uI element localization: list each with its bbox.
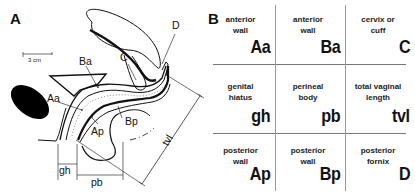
grid-cell-c: cervix orcuff C <box>345 0 415 64</box>
grid-divider-vertical-1 <box>275 5 276 191</box>
cell-abbreviation: tvl <box>392 105 410 127</box>
label-c: C <box>120 52 128 63</box>
panel-a-letter: A <box>10 10 21 27</box>
grid-cell-bp: posteriorwall Bp <box>275 133 345 195</box>
panel-a-sagittal-diagram: A 3 cm Ba C D Aa Ap Bp gh pb tvl <box>0 0 210 195</box>
grid-cell-d: posteriorfornix D <box>345 133 415 195</box>
label-ap: Ap <box>91 126 104 137</box>
cell-description: total vaginallength <box>345 81 411 103</box>
cell-abbreviation: Ba <box>320 36 340 58</box>
cell-description: anteriorwall <box>210 14 271 36</box>
grid-cell-tvl: total vaginallength tvl <box>345 64 415 133</box>
panel-b-legend-grid: B anteriorwall Aa anteriorwall Ba cervix… <box>210 0 415 195</box>
label-aa: Aa <box>47 93 60 104</box>
rectum-dash <box>130 128 154 140</box>
grid-cell-pb: perinealbody pb <box>275 64 345 133</box>
cell-abbreviation: Aa <box>250 36 270 58</box>
grid-cell-ba: anteriorwall Ba <box>275 0 345 64</box>
label-gh: gh <box>59 165 71 176</box>
grid-divider-horizontal-2 <box>213 133 406 134</box>
measurement-grid: anteriorwall Aa anteriorwall Ba cervix o… <box>210 0 415 195</box>
grid-cell-ap: posteriorwall Ap <box>210 133 275 195</box>
d-leader <box>162 34 175 64</box>
perineum-diagonal <box>76 140 142 184</box>
grid-cell-gh: genitalhiatus gh <box>210 64 275 133</box>
grid-cell-aa: anteriorwall Aa <box>210 0 275 64</box>
label-pb: pb <box>91 177 103 188</box>
grid-divider-vertical-2 <box>345 5 346 191</box>
cell-abbreviation: D <box>399 163 410 185</box>
cell-abbreviation: pb <box>321 105 340 127</box>
cell-abbreviation: gh <box>251 105 270 127</box>
grid-divider-horizontal-1 <box>213 64 406 65</box>
cell-description: genitalhiatus <box>210 81 271 103</box>
label-bp: Bp <box>125 116 138 127</box>
label-d: D <box>172 20 180 31</box>
cell-abbreviation: Ap <box>249 163 270 185</box>
cell-abbreviation: C <box>399 36 410 58</box>
cell-description: cervix orcuff <box>345 14 411 36</box>
ap-leader <box>92 118 98 124</box>
cell-description: anteriorwall <box>275 14 341 36</box>
cell-abbreviation: Bp <box>319 163 340 185</box>
dotted-reference-curve <box>72 84 166 136</box>
scale-bar-label: 3 cm <box>28 57 41 63</box>
label-ba: Ba <box>79 56 92 67</box>
cell-description: perinealbody <box>275 81 341 103</box>
ba-leader <box>86 66 98 88</box>
